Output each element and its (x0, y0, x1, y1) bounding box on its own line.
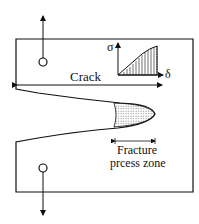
delta-label: δ (165, 67, 171, 82)
sigma-label: σ (107, 40, 113, 55)
bottom-pin-hole (39, 164, 47, 172)
crack-label: Crack (70, 69, 101, 85)
specimen-outline (16, 39, 193, 192)
top-pin-hole (39, 58, 47, 66)
fracture-process-zone (114, 103, 155, 127)
fracture-diagram (0, 0, 199, 224)
zone-label-line2: prcess zone (110, 156, 166, 171)
